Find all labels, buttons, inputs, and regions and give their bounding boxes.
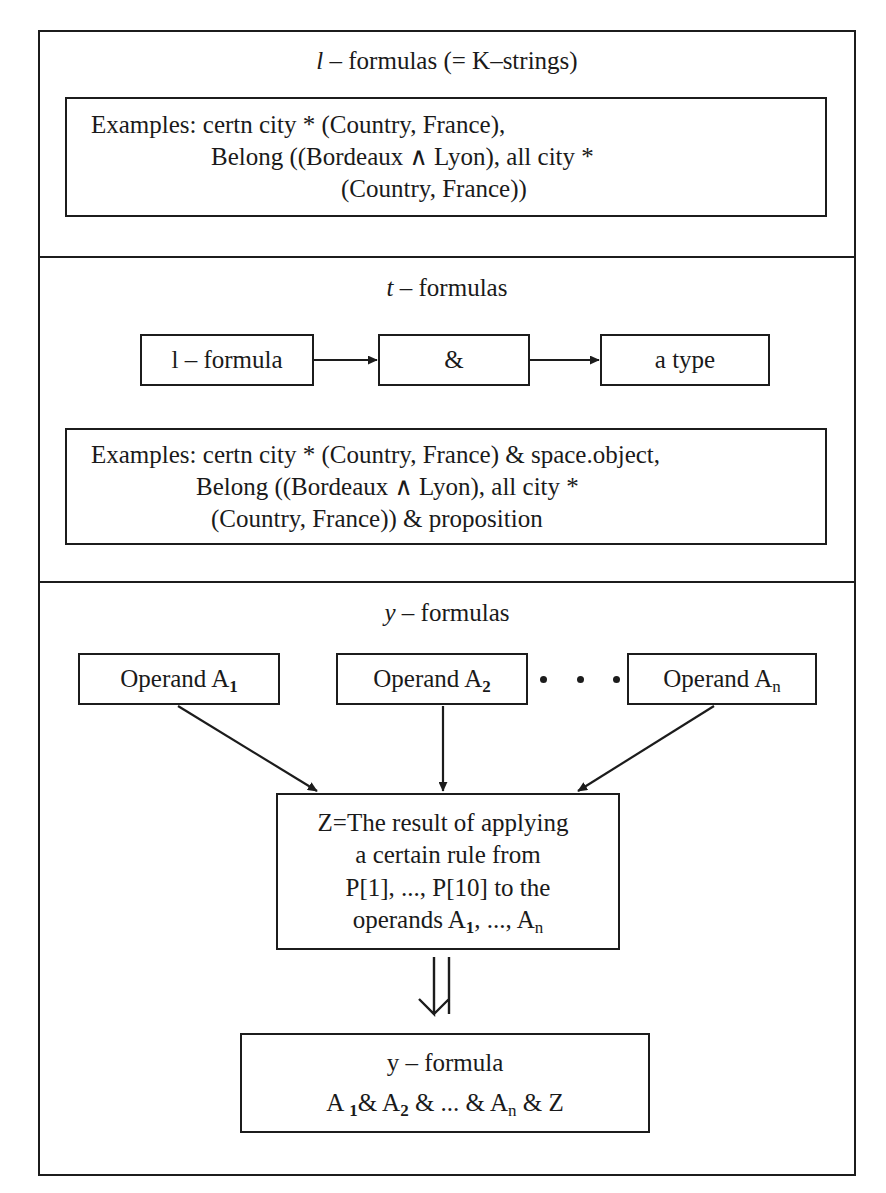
node-operand-a1-label: Operand A1 (120, 663, 238, 695)
final-y-formula-expression: A 1& A2 & ... & An & Z (326, 1087, 563, 1119)
node-l-formula: l – formula (140, 334, 314, 386)
examples-box-l-formulas: Examples: certn city * (Country, France)… (65, 97, 827, 217)
section-divider-2 (38, 581, 856, 583)
section-title-t-text: – formulas (394, 274, 508, 301)
section-title-t-formulas: t – formulas (38, 274, 856, 303)
section-title-l-text: – formulas (= K–strings) (323, 47, 577, 74)
node-l-formula-label: l – formula (171, 344, 282, 376)
section-title-l-formulas: l – formulas (= K–strings) (38, 47, 856, 76)
final-y-formula-title: y – formula (387, 1047, 504, 1079)
node-final-y-formula: y – formula A 1& A2 & ... & An & Z (240, 1033, 650, 1133)
section-title-y-formulas: y – formulas (38, 599, 856, 628)
examples-l-line-2: Belong ((Bordeaux ∧ Lyon), all city * (211, 141, 594, 173)
node-operand-a2-label: Operand A2 (373, 663, 491, 695)
ellipsis-dot (613, 676, 620, 683)
node-operand-an-label: Operand An (663, 663, 781, 695)
result-z-line-3: P[1], ..., P[10] to the (346, 872, 551, 905)
result-z-line-2: a certain rule from (355, 839, 540, 872)
node-operand-a1: Operand A1 (78, 653, 280, 705)
node-ampersand: & (378, 334, 530, 386)
ellipsis-dot (540, 676, 547, 683)
section-divider-1 (38, 256, 856, 258)
ellipsis-dot (577, 676, 584, 683)
examples-t-line-1: Examples: certn city * (Country, France)… (91, 439, 660, 471)
result-z-line-1: Z=The result of applying (328, 807, 569, 840)
node-a-type: a type (600, 334, 770, 386)
section-title-y-text: – formulas (396, 599, 510, 626)
examples-box-t-formulas: Examples: certn city * (Country, France)… (65, 428, 827, 545)
operand-ellipsis-dots (540, 669, 620, 689)
examples-t-line-2: Belong ((Bordeaux ∧ Lyon), all city * (196, 471, 579, 503)
node-operand-an: Operand An (627, 653, 817, 705)
node-result-z: Z=The result of applying a certain rule … (276, 793, 620, 950)
examples-t-line-3: (Country, France)) & proposition (211, 503, 543, 535)
node-ampersand-label: & (444, 344, 463, 376)
formula-hierarchy-diagram: l – formulas (= K–strings) Examples: cer… (0, 0, 886, 1193)
section-title-t-symbol: t (387, 274, 394, 301)
node-operand-a2: Operand A2 (336, 653, 528, 705)
examples-l-line-1: Examples: certn city * (Country, France)… (91, 109, 505, 141)
section-title-y-symbol: y (385, 599, 396, 626)
result-z-line-4: operands A1, ..., An (353, 904, 544, 937)
examples-l-line-3: (Country, France)) (341, 173, 527, 205)
node-a-type-label: a type (655, 344, 715, 376)
